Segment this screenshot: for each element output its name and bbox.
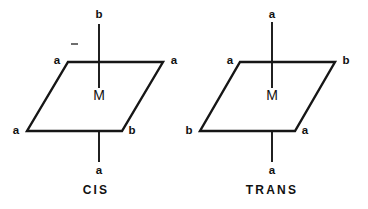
cis-caption: CIS [83, 183, 110, 197]
trans-caption: TRANS [246, 183, 298, 197]
cis-ligand-top-left: a [54, 54, 61, 66]
cis-ligand-axial-bottom: a [96, 164, 103, 176]
cis-structure: b a a a a b M CIS [13, 8, 178, 197]
trans-ligand-axial-top: a [269, 8, 276, 20]
cis-ligand-axial-top: b [95, 8, 102, 20]
trans-structure: a a a b b a M TRANS [185, 8, 349, 197]
trans-ligand-top-left: a [227, 54, 234, 66]
trans-ligand-bottom-left: b [185, 124, 192, 136]
cis-metal-center: M [93, 87, 105, 103]
diagram-canvas: b a a a a b M CIS a a a b b [0, 0, 368, 209]
cis-ligand-bottom-left: a [13, 124, 20, 136]
cis-ligand-top-right: a [171, 54, 178, 66]
trans-ligand-axial-bottom: a [269, 164, 276, 176]
cis-ligand-bottom-right: b [128, 124, 135, 136]
trans-metal-center: M [266, 87, 278, 103]
trans-ligand-bottom-right: a [302, 124, 309, 136]
trans-ligand-top-right: b [342, 54, 349, 66]
chemistry-figure: b a a a a b M CIS a a a b b [0, 0, 368, 209]
